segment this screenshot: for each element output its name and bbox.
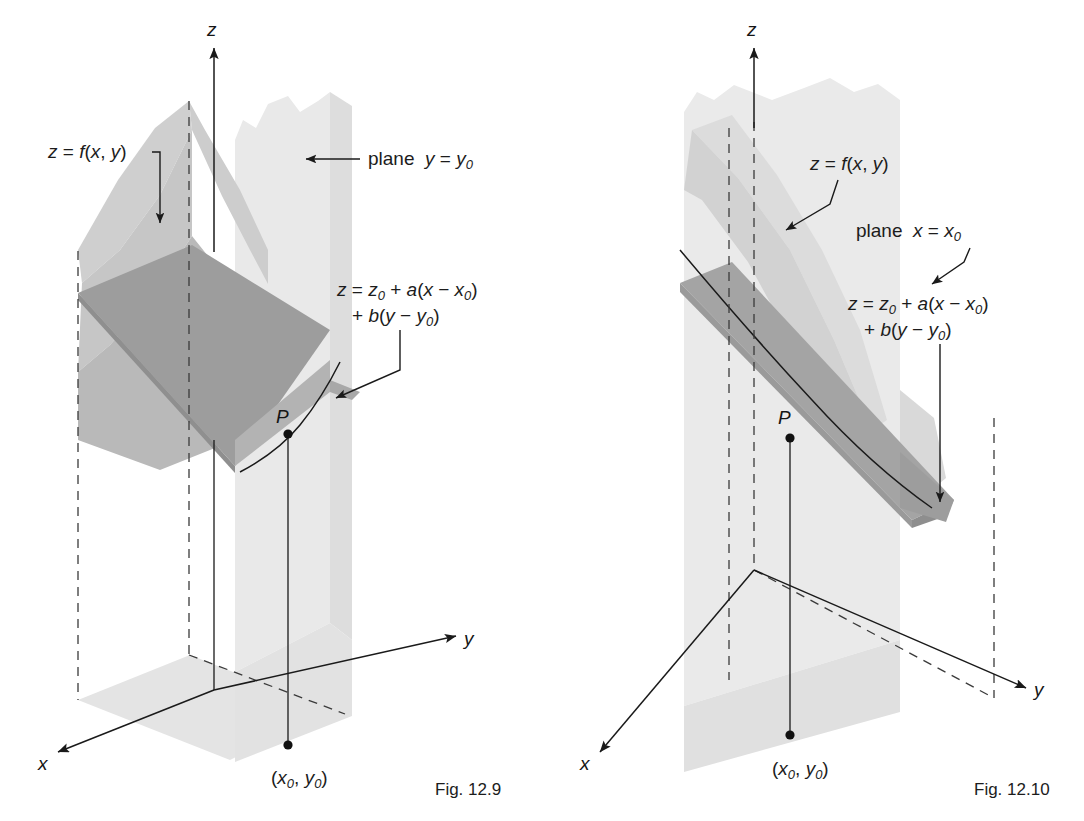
point-P-marker — [283, 429, 292, 438]
x-axis-label: x — [579, 753, 591, 774]
tangent-eq-line1: z = z0 + a(x − x0) — [336, 279, 478, 303]
foot-point-marker — [283, 740, 292, 749]
plane-y-equals-y0-side — [330, 92, 352, 640]
figure-12-10-canvas: z x y P (x0, y0) z = f(x, y) plane x = x… — [542, 0, 1084, 821]
z-axis-label: z — [206, 19, 217, 40]
point-P-marker — [785, 433, 794, 442]
y-axis-label: y — [462, 628, 475, 649]
x-axis-label: x — [37, 753, 49, 774]
point-P-label: P — [276, 406, 289, 427]
y-axis-label: y — [1032, 679, 1045, 700]
figure-12-9: z x y P (x0, y0) z = f(x, y) plane y = y… — [0, 0, 542, 821]
plane-label-text: plane x = x0 — [856, 220, 962, 244]
tangent-eq-line1: z = z0 + a(x − x0) — [847, 293, 989, 317]
point-P-label: P — [778, 407, 791, 428]
foot-point-marker — [785, 730, 794, 739]
figure-caption: Fig. 12.10 — [974, 780, 1050, 799]
tangent-eq-line2: + b(y − y0) — [864, 319, 952, 343]
foot-point-label: (x0, y0) — [772, 758, 829, 782]
plane-label-leader — [932, 248, 970, 284]
figure-12-10: z x y P (x0, y0) z = f(x, y) plane x = x… — [542, 0, 1084, 821]
surface-label-text: z = f(x, y) — [47, 141, 127, 162]
plane-label-text: plane y = y0 — [368, 148, 474, 172]
surface-label-text: z = f(x, y) — [809, 153, 889, 174]
z-axis-label: z — [746, 19, 757, 40]
figure-12-9-canvas: z x y P (x0, y0) z = f(x, y) plane y = y… — [0, 0, 542, 821]
tangent-eq-line2: + b(y − y0) — [352, 305, 440, 329]
foot-point-label: (x0, y0) — [271, 767, 328, 791]
figure-caption: Fig. 12.9 — [435, 780, 501, 799]
